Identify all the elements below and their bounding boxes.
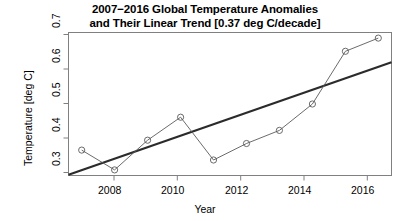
anomaly-data-points — [79, 35, 382, 173]
x-axis-tick-label-2016: 2016 — [351, 184, 374, 196]
y-axis-tick-label-0.3: 0.3 — [50, 151, 62, 166]
x-axis-ticks — [114, 176, 367, 181]
y-axis-tick-label-0.4: 0.4 — [50, 117, 62, 132]
x-axis-title: Year — [0, 203, 410, 215]
x-axis-tick-label-2014: 2014 — [288, 184, 311, 196]
y-axis-tick-label-0.7: 0.7 — [50, 13, 62, 28]
linear-trend-line — [69, 62, 392, 175]
y-axis-tick-label-0.6: 0.6 — [50, 48, 62, 63]
y-axis-ticks — [64, 35, 69, 173]
x-axis-tick-label-2008: 2008 — [98, 184, 121, 196]
chart-figure: 2007−2016 Global Temperature Anomalies a… — [0, 0, 410, 221]
x-axis-tick-label-2010: 2010 — [161, 184, 184, 196]
y-axis-tick-label-0.5: 0.5 — [50, 82, 62, 97]
plot-area — [0, 0, 410, 221]
y-axis-title: Temperature [deg C] — [22, 70, 34, 166]
anomaly-series-line — [82, 38, 379, 170]
x-axis-tick-label-2012: 2012 — [225, 184, 248, 196]
